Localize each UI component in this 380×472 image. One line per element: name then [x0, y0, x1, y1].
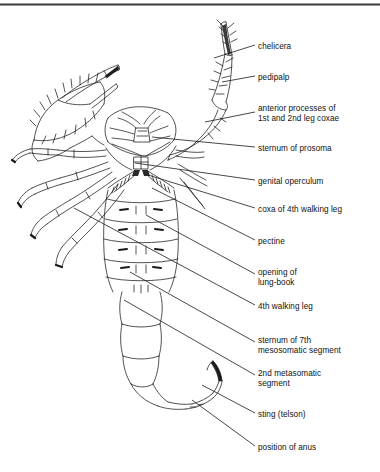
label-anterior-coxae-1: anterior processes of	[258, 104, 336, 114]
label-4th-walking-leg: 4th walking leg	[258, 302, 313, 312]
label-genital-operculum: genital operculum	[258, 177, 323, 187]
label-lung-book-2: lung-book	[258, 278, 294, 288]
label-chelicera: chelicera	[258, 42, 291, 52]
label-sternum-7th-2: mesosomatic segment	[258, 346, 341, 356]
label-pedipalp: pedipalp	[258, 73, 289, 83]
label-position-anus: position of anus	[258, 443, 316, 453]
label-coxa-4th-leg: coxa of 4th walking leg	[258, 205, 342, 215]
figure-canvas: chelicerapedipalpanterior processes of1s…	[0, 0, 380, 472]
scorpion-anatomy-diagram	[0, 0, 380, 472]
label-metasomatic-2: segment	[258, 379, 290, 389]
label-pectine: pectine	[258, 237, 285, 247]
label-sternum-7th-1: sternum of 7th	[258, 336, 311, 346]
label-metasomatic-1: 2nd metasomatic	[258, 369, 321, 379]
label-anterior-coxae-2: 1st and 2nd leg coxae	[258, 114, 339, 124]
label-sting-telson: sting (telson)	[258, 410, 306, 420]
label-lung-book-1: opening of	[258, 268, 297, 278]
figure-background	[0, 0, 380, 472]
label-sternum-prosoma: sternum of prosoma	[258, 144, 332, 154]
